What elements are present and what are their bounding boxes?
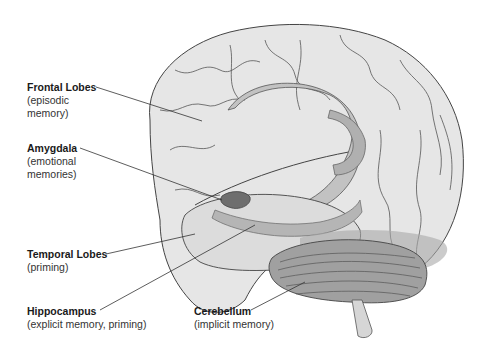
brain-stem [352,300,372,338]
brain-diagram: Frontal Lobes (episodic memory) Amygdala… [0,0,479,346]
label-temporal-lobes: Temporal Lobes (priming) [27,248,107,274]
label-hippocampus: Hippocampus (explicit memory, priming) [27,305,146,331]
label-cerebellum: Cerebellum (implicit memory) [194,305,274,331]
label-amygdala: Amygdala (emotional memories) [27,142,77,181]
label-frontal-lobes: Frontal Lobes (episodic memory) [27,81,96,120]
